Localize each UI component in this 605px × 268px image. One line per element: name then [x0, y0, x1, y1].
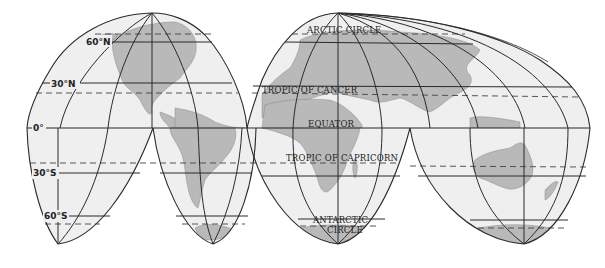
label-equator: EQUATOR [308, 119, 355, 129]
label-30n: 30°N [51, 79, 76, 89]
label-tropic-of-cancer: TROPIC OF CANCER [262, 85, 358, 95]
world-map: 60°N 30°N 0° 30°S 60°S ARCTIC CIRCLE TRO… [0, 0, 605, 268]
label-60s: 60°S [44, 211, 68, 221]
label-arctic-circle: ARCTIC CIRCLE [306, 25, 382, 35]
label-antarctic: ANTARCTIC [312, 215, 368, 225]
label-equator-0: 0° [33, 123, 44, 133]
label-60n: 60°N [86, 37, 111, 47]
label-30s: 30°S [33, 168, 57, 178]
label-antarctic-circle: CIRCLE [327, 225, 363, 235]
label-tropic-of-capricorn: TROPIC OF CAPRICORN [286, 153, 398, 163]
